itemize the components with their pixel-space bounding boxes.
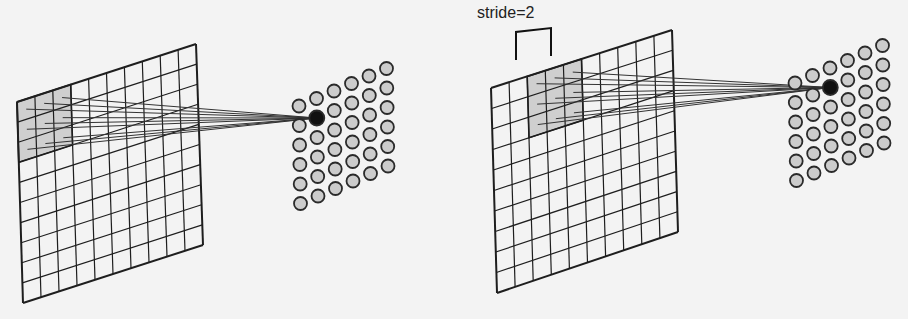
output-node xyxy=(363,70,376,83)
output-node xyxy=(807,128,820,141)
output-node xyxy=(877,117,890,130)
diagram-canvas xyxy=(0,0,908,319)
output-node xyxy=(806,69,819,82)
output-node xyxy=(841,54,854,67)
output-node xyxy=(876,59,889,72)
output-node xyxy=(293,158,306,171)
output-node xyxy=(328,104,341,117)
output-node xyxy=(364,148,377,161)
output-node xyxy=(363,109,376,122)
output-node xyxy=(842,132,855,145)
output-node xyxy=(877,78,890,91)
grid-line xyxy=(497,232,678,293)
output-node xyxy=(824,101,837,114)
output-node xyxy=(860,144,873,157)
output-node xyxy=(843,152,856,165)
output-node xyxy=(806,89,819,102)
output-node xyxy=(807,147,820,160)
output-node xyxy=(382,160,395,173)
connection-line xyxy=(62,98,317,118)
stride-label: stride=2 xyxy=(477,4,534,22)
output-node xyxy=(294,178,307,191)
output-node xyxy=(825,140,838,153)
output-node xyxy=(859,86,872,99)
output-node xyxy=(293,100,306,113)
output-node xyxy=(346,136,359,149)
output-node xyxy=(311,131,324,144)
output-node xyxy=(859,47,872,60)
output-node xyxy=(328,85,341,98)
output-node xyxy=(363,128,376,141)
convolution-stride-diagram: stride=2 xyxy=(0,0,908,319)
output-node xyxy=(877,98,890,111)
output-node xyxy=(825,159,838,172)
output-node xyxy=(293,119,306,132)
output-node xyxy=(363,89,376,102)
output-node xyxy=(841,74,854,87)
output-node xyxy=(329,182,342,195)
output-node xyxy=(859,105,872,118)
output-node xyxy=(824,120,837,133)
output-node xyxy=(381,101,394,114)
output-node xyxy=(380,82,393,95)
output-node xyxy=(345,77,358,90)
output-node xyxy=(294,197,307,210)
output-node xyxy=(328,143,341,156)
active-output-node xyxy=(823,80,838,95)
active-output-node xyxy=(309,111,324,126)
receptive-field xyxy=(527,59,583,138)
output-node xyxy=(380,62,393,75)
output-node xyxy=(789,116,802,129)
output-node xyxy=(878,137,891,150)
output-node xyxy=(310,92,323,105)
output-node xyxy=(808,167,821,180)
output-node xyxy=(807,108,820,121)
output-node xyxy=(345,97,358,110)
output-node xyxy=(311,170,324,183)
output-node xyxy=(789,135,802,148)
output-node xyxy=(311,151,324,164)
output-node xyxy=(364,167,377,180)
output-node xyxy=(860,125,873,138)
output-node xyxy=(347,175,360,188)
output-node xyxy=(293,139,306,152)
output-node xyxy=(842,93,855,106)
stride-bracket xyxy=(516,28,551,60)
output-node xyxy=(346,116,359,129)
output-node xyxy=(859,66,872,79)
output-node xyxy=(789,96,802,109)
output-node xyxy=(876,39,889,52)
output-node xyxy=(790,155,803,168)
output-node xyxy=(346,155,359,168)
output-node xyxy=(790,174,803,187)
output-node xyxy=(824,62,837,75)
output-node xyxy=(329,163,342,176)
output-node xyxy=(789,77,802,90)
output-node xyxy=(328,124,341,137)
output-node xyxy=(381,140,394,153)
output-node xyxy=(842,113,855,126)
output-node xyxy=(381,121,394,134)
output-node xyxy=(312,190,325,203)
